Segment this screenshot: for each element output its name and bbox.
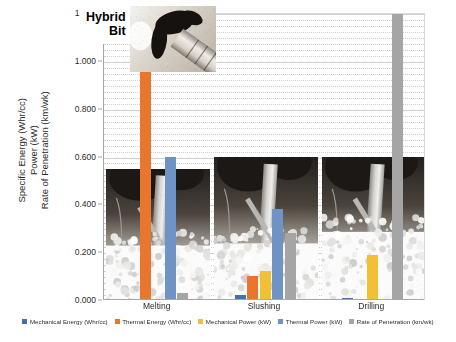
y-axis-title: Specific Energy (Whr/cc) Power (kW) Rate…: [10, 0, 56, 300]
y-axis-tick-label: 0.800: [75, 104, 96, 114]
gridline-minor: [104, 98, 424, 99]
legend-label: Mechanical Power (kW): [206, 318, 271, 325]
bar-slushing-series-1: [247, 276, 258, 300]
category-label-slushing: Slushing: [248, 301, 281, 311]
gridline-minor: [104, 104, 424, 105]
bar-drilling-series-2: [367, 255, 378, 300]
y-axis-title-line-2: Power (kW): [27, 91, 39, 209]
legend-label: Thermal Power (kW): [286, 318, 343, 325]
bar-slushing-series-3: [272, 209, 283, 300]
gridline-minor: [104, 92, 424, 93]
gridline-minor: [104, 128, 424, 129]
legend-item-1[interactable]: Thermal Energy (Whr/cc): [115, 318, 192, 325]
y-axis-tick-mark: [98, 252, 102, 253]
y-axis-tick-mark: [98, 300, 102, 301]
gridline-minor: [104, 86, 424, 87]
gridline-minor: [104, 80, 424, 81]
legend-swatch-icon: [349, 319, 354, 324]
hybrid-bit-photo: [130, 6, 216, 72]
bar-melting-series-3: [165, 157, 176, 301]
category-label-drilling: Drilling: [358, 301, 384, 311]
legend-swatch-icon: [198, 319, 203, 324]
hybrid-bit-callout: Hybrid Bit: [80, 6, 216, 72]
gridline-minor: [104, 146, 424, 147]
legend-item-0[interactable]: Mechanical Energy (Whr/cc): [22, 318, 107, 325]
gridline-minor: [104, 74, 424, 75]
legend-label: Rate of Penetration (km/wk): [357, 318, 434, 325]
legend-item-2[interactable]: Mechanical Power (kW): [198, 318, 271, 325]
x-axis-category-labels: MeltingSlushingDrilling: [103, 301, 425, 315]
legend-label: Thermal Energy (Whr/cc): [122, 318, 191, 325]
y-axis-tick-mark: [98, 156, 102, 157]
y-axis-tick-label: 0.000: [75, 295, 96, 305]
gridline-minor: [104, 152, 424, 153]
x-axis-line: [104, 299, 424, 300]
chart-legend: Mechanical Energy (Whr/cc)Thermal Energy…: [0, 318, 456, 325]
gridline-minor: [104, 140, 424, 141]
bar-chart: Specific Energy (Whr/cc) Power (kW) Rate…: [0, 0, 456, 342]
y-axis-tick-mark: [98, 204, 102, 205]
bar-slushing-series-4: [285, 233, 296, 300]
legend-swatch-icon: [22, 319, 27, 324]
gridline-minor: [104, 116, 424, 117]
gridline-minor: [104, 122, 424, 123]
gridline-major: [104, 110, 424, 111]
y-axis-tick-mark: [98, 108, 102, 109]
gridline-minor: [104, 134, 424, 135]
y-axis-tick-label: 0.400: [75, 199, 96, 209]
bar-melting-series-1: [140, 58, 151, 300]
hybrid-bit-label: Hybrid Bit: [80, 6, 130, 44]
legend-item-3[interactable]: Thermal Power (kW): [278, 318, 342, 325]
melting-ice-experiment-photo: [106, 169, 210, 300]
y-axis-tick-label: 0.200: [75, 247, 96, 257]
bar-drilling-series-4: [392, 13, 403, 300]
legend-swatch-icon: [278, 319, 283, 324]
legend-swatch-icon: [115, 319, 120, 324]
bar-slushing-series-2: [260, 271, 271, 300]
y-axis-title-line-3: Rate of Penetration (km/wk): [39, 91, 51, 209]
y-axis-title-line-1: Specific Energy (Whr/cc): [16, 91, 28, 209]
legend-item-4[interactable]: Rate of Penetration (km/wk): [349, 318, 433, 325]
y-axis-tick-label: 0.600: [75, 152, 96, 162]
legend-label: Mechanical Energy (Whr/cc): [30, 318, 108, 325]
category-label-melting: Melting: [143, 301, 170, 311]
